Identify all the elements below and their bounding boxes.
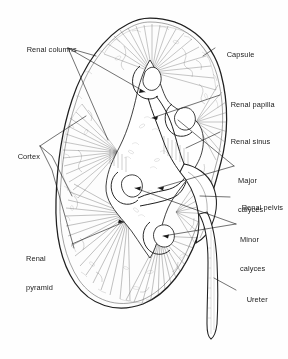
label-capsule: Capsule: [218, 41, 254, 69]
label-cortex: Cortex: [9, 143, 40, 171]
label-renal-papilla: Renal papilla: [222, 91, 275, 119]
renal-papilla-upper-right: [174, 108, 195, 131]
label-major-calyces-line1: Major: [238, 176, 263, 186]
label-renal-pelvis-text: Renal pelvis: [242, 203, 283, 212]
renal-papilla-upper: [143, 67, 161, 90]
label-renal-pyramid: Renal pyramid: [26, 235, 53, 312]
label-minor-calyces-line2: calyces: [240, 264, 265, 274]
label-renal-sinus-text: Renal sinus: [231, 137, 271, 146]
label-cortex-text: Cortex: [18, 152, 40, 161]
label-ureter-text: Ureter: [247, 295, 268, 304]
label-renal-pyramid-line1: Renal: [26, 254, 53, 264]
label-ureter: Ureter: [238, 286, 268, 314]
label-renal-sinus: Renal sinus: [222, 128, 270, 156]
kidney-anatomy-figure: Renal columns Capsule Renal papilla Rena…: [0, 0, 288, 359]
label-renal-papilla-text: Renal papilla: [231, 100, 275, 109]
label-minor-calyces-line1: Minor: [240, 235, 265, 245]
label-capsule-text: Capsule: [227, 50, 255, 59]
label-minor-calyces: Minor calyces: [240, 216, 265, 293]
renal-papilla-mid: [121, 175, 142, 197]
label-renal-pyramid-line2: pyramid: [26, 283, 53, 293]
label-renal-columns-text: Renal columns: [27, 45, 77, 54]
label-renal-columns: Renal columns: [18, 36, 77, 64]
